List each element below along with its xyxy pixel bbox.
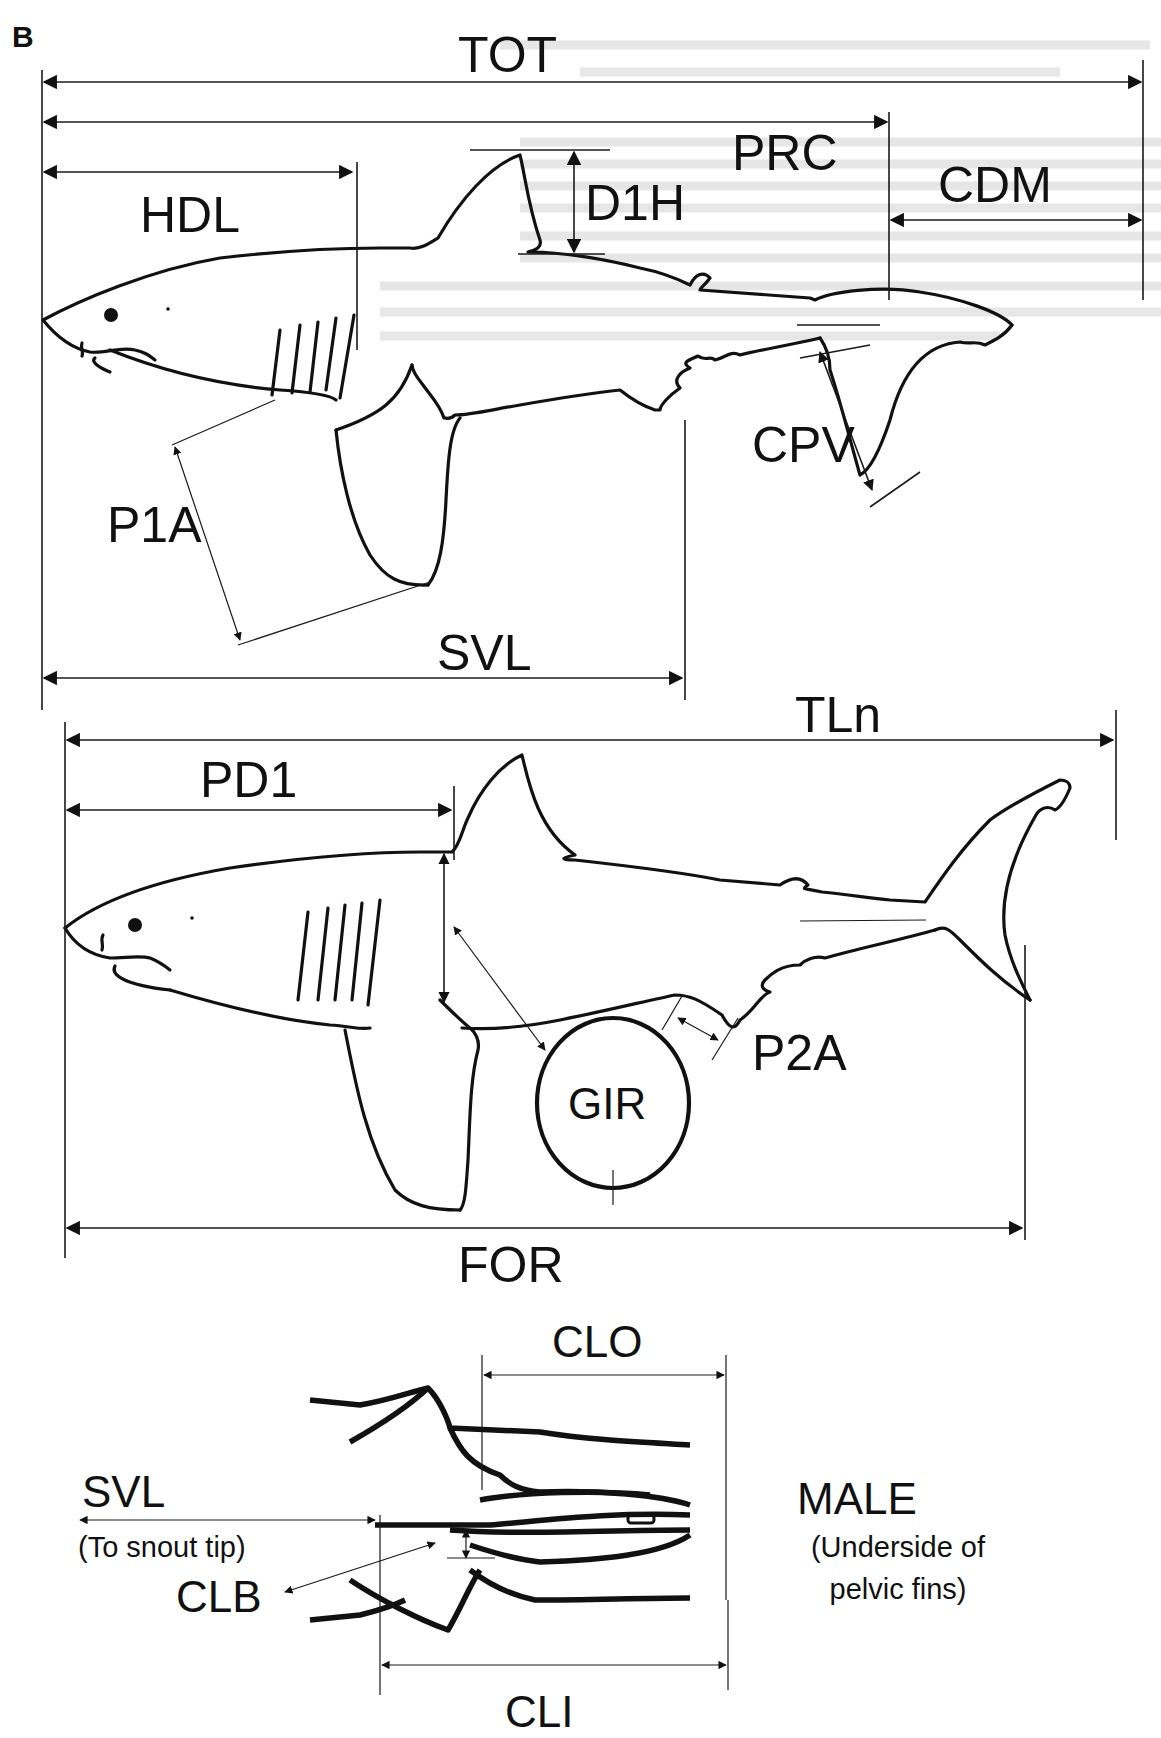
- label-cdm: CDM: [938, 160, 1052, 210]
- panel-label: B: [12, 22, 34, 52]
- pelvic-fin-detail: [80, 1355, 728, 1695]
- label-cli: CLI: [505, 1690, 573, 1734]
- diagram-drawing: [0, 0, 1161, 1738]
- label-p2a: P2A: [752, 1028, 847, 1078]
- label-svl-pelvic: SVL: [82, 1470, 165, 1514]
- label-tln: TLn: [795, 690, 881, 740]
- label-gir: GIR: [568, 1082, 646, 1126]
- view-note-line2: pelvic fins): [778, 1575, 1018, 1604]
- label-for: FOR: [458, 1240, 564, 1290]
- label-tot: TOT: [458, 30, 557, 80]
- label-cpv: CPV: [752, 420, 855, 470]
- view-note-line1: (Underside of: [778, 1533, 1018, 1562]
- middle-shark-outline: [65, 755, 1070, 1210]
- label-clb: CLB: [176, 1575, 262, 1619]
- svl-note: (To snout tip): [78, 1533, 246, 1562]
- label-svl-top: SVL: [437, 628, 532, 678]
- label-pd1: PD1: [200, 755, 297, 805]
- label-clo: CLO: [552, 1320, 642, 1364]
- label-prc: PRC: [732, 128, 838, 178]
- label-d1h: D1H: [585, 178, 685, 228]
- label-hdl: HDL: [140, 190, 240, 240]
- shark-measurement-diagram: B TOT PRC HDL D1H CDM CPV P1A SVL TLn PD…: [0, 0, 1161, 1738]
- label-p1a: P1A: [107, 500, 202, 550]
- sex-label: MALE: [797, 1477, 917, 1521]
